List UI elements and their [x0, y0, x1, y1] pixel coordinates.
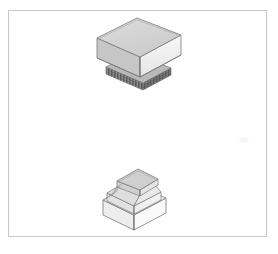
- scan-smudge-mark: [239, 137, 249, 143]
- figure-canvas: [0, 0, 278, 254]
- figure-container: Isometric technical line drawing Explode…: [0, 0, 278, 254]
